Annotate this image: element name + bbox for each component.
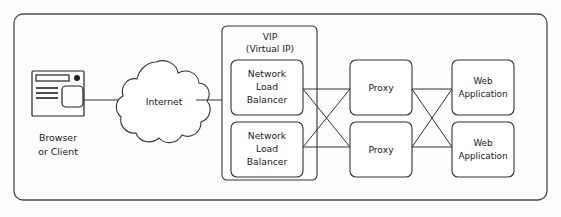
webapp-1-line1: Web [473, 76, 493, 86]
nlb-1-line2: Load [256, 81, 278, 92]
nlb-2-line3: Balancer [247, 156, 288, 167]
internet-node: Internet [116, 61, 210, 143]
webapp-1-line2: Application [458, 89, 507, 99]
browser-titlebar-icon [36, 75, 69, 81]
webapp-2-line1: Web [473, 138, 493, 148]
nlb-2-line2: Load [256, 143, 278, 154]
network-load-balancer-2: Network Load Balancer [231, 122, 303, 177]
nlb-1-line3: Balancer [247, 94, 288, 105]
webapp-1-box [452, 60, 514, 115]
proxy-2-label: Proxy [368, 144, 394, 155]
proxy-node-1: Proxy [350, 60, 412, 115]
internet-label: Internet [146, 96, 183, 107]
vip-group: VIP (Virtual IP) Network Load Balancer N… [222, 26, 317, 180]
webapp-2-line2: Application [458, 151, 507, 161]
browser-client-node: Browser or Client [32, 71, 84, 157]
proxy-node-2: Proxy [350, 122, 412, 177]
diagram-canvas: Browser or Client Internet VIP (Virtual … [0, 0, 561, 217]
nlb-2-line1: Network [248, 130, 287, 141]
client-label-line1: Browser [39, 132, 77, 143]
webapp-2-box [452, 122, 514, 177]
client-label-line2: or Client [38, 146, 78, 157]
web-application-node-2: Web Application [452, 122, 514, 177]
web-application-node-1: Web Application [452, 60, 514, 115]
mesh-nlb-proxy [303, 89, 350, 147]
vip-label-line1: VIP [263, 31, 278, 42]
network-load-balancer-1: Network Load Balancer [231, 60, 303, 115]
browser-content-panel-icon [62, 86, 83, 107]
proxy-1-label: Proxy [368, 82, 394, 93]
mesh-proxy-webapp [412, 89, 452, 147]
nlb-1-line1: Network [248, 68, 287, 79]
browser-dot-icon [74, 75, 80, 81]
vip-label-line2: (Virtual IP) [246, 43, 294, 54]
